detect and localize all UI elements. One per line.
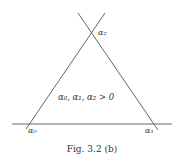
- vertex-label-right: α₁: [145, 126, 154, 135]
- line-left: [26, 13, 105, 129]
- vertex-label-top: α₂: [98, 28, 107, 37]
- line-right: [78, 13, 158, 130]
- condition-label: α₀, α₁, α₂ > 0: [58, 92, 115, 102]
- triangle-diagram: α₂ α₀ α₁ α₀, α₁, α₂ > 0 Fig. 3.2 (b): [0, 0, 183, 159]
- figure-caption: Fig. 3.2 (b): [67, 144, 118, 154]
- vertex-label-left: α₀: [28, 126, 37, 135]
